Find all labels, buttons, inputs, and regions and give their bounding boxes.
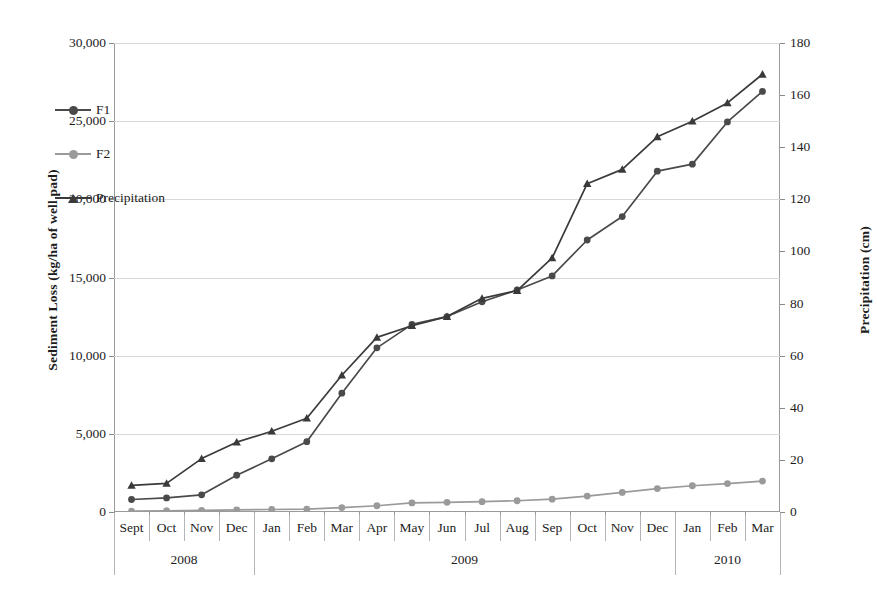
right-tick-mark (780, 147, 785, 148)
right-axis-tick-labels: 020406080100120140160180 (790, 0, 850, 602)
right-tick-label: 60 (790, 349, 804, 363)
x-category-label: Jan (675, 513, 710, 543)
x-axis-category-band: SeptOctNovDecJanFebMarAprMayJunJulAugSep… (114, 513, 780, 543)
x-year-label: 2010 (675, 545, 780, 575)
right-tick-label: 180 (790, 36, 810, 50)
chart-figure: Sediment Loss (kg/ha of well pad) Precip… (0, 0, 877, 602)
x-category-separator (359, 515, 360, 541)
x-year-separator (675, 513, 676, 575)
right-tick-mark (780, 304, 785, 305)
x-category-label: Dec (219, 513, 254, 543)
x-category-separator (394, 515, 395, 541)
x-category-label: Sep (535, 513, 570, 543)
x-category-separator (710, 515, 711, 541)
x-category-label: Oct (570, 513, 605, 543)
x-category-separator (535, 515, 536, 541)
right-tick-label: 20 (790, 453, 804, 467)
x-category-separator (324, 515, 325, 541)
x-year-label: 2009 (254, 545, 675, 575)
legend-marker-f2-icon (55, 147, 91, 161)
x-category-label: May (394, 513, 429, 543)
x-category-separator (184, 515, 185, 541)
x-category-label: Dec (640, 513, 675, 543)
left-tick-label: 5,000 (28, 427, 106, 441)
x-category-label: Sept (114, 513, 149, 543)
left-tick-label: 0 (28, 505, 106, 519)
x-category-separator (500, 515, 501, 541)
x-category-label: Oct (149, 513, 184, 543)
legend-item-f1[interactable]: F1 (55, 88, 255, 132)
right-axis-title: Precipitation (cm) (857, 115, 873, 445)
legend-item-precipitation[interactable]: Precipitation (55, 176, 255, 220)
x-category-separator (465, 515, 466, 541)
x-category-label: Apr (359, 513, 394, 543)
right-tick-mark (780, 43, 785, 44)
right-tick-label: 140 (790, 140, 810, 154)
x-category-separator (570, 515, 571, 541)
legend-label: F2 (96, 146, 110, 162)
x-category-label: Mar (324, 513, 359, 543)
legend-item-f2[interactable]: F2 (55, 132, 255, 176)
legend-label: F1 (96, 102, 110, 118)
left-tick-label: 15,000 (28, 271, 106, 285)
left-tick-label: 10,000 (28, 349, 106, 363)
x-year-label: 2008 (114, 545, 254, 575)
right-tick-label: 0 (790, 505, 797, 519)
x-category-label: Jul (465, 513, 500, 543)
right-tick-label: 40 (790, 401, 804, 415)
x-category-label: Feb (289, 513, 324, 543)
right-tick-mark (780, 356, 785, 357)
right-tick-mark (780, 199, 785, 200)
legend-marker-precipitation-icon (55, 191, 91, 205)
x-category-separator (605, 515, 606, 541)
right-tick-label: 160 (790, 88, 810, 102)
x-category-label: Mar (745, 513, 780, 543)
x-category-separator (219, 515, 220, 541)
x-category-label: Jun (429, 513, 464, 543)
right-tick-mark (780, 95, 785, 96)
x-category-label: Nov (184, 513, 219, 543)
x-year-separator (254, 513, 255, 575)
right-tick-label: 80 (790, 297, 804, 311)
x-category-separator (745, 515, 746, 541)
x-year-separator (114, 513, 115, 575)
x-category-label: Jan (254, 513, 289, 543)
x-category-separator (429, 515, 430, 541)
x-category-separator (289, 515, 290, 541)
left-tick-label: 30,000 (28, 36, 106, 50)
right-tick-mark (780, 408, 785, 409)
x-year-separator (780, 513, 781, 575)
chart-legend: F1F2Precipitation (55, 88, 255, 220)
right-tick-mark (780, 460, 785, 461)
x-axis-year-band: 200820092010 (114, 545, 780, 577)
legend-label: Precipitation (96, 190, 165, 206)
right-tick-label: 120 (790, 192, 810, 206)
x-category-label: Nov (605, 513, 640, 543)
x-category-separator (149, 515, 150, 541)
x-category-label: Aug (500, 513, 535, 543)
x-category-label: Feb (710, 513, 745, 543)
right-tick-label: 100 (790, 244, 810, 258)
legend-marker-f1-icon (55, 103, 91, 117)
right-tick-mark (780, 251, 785, 252)
x-category-separator (640, 515, 641, 541)
